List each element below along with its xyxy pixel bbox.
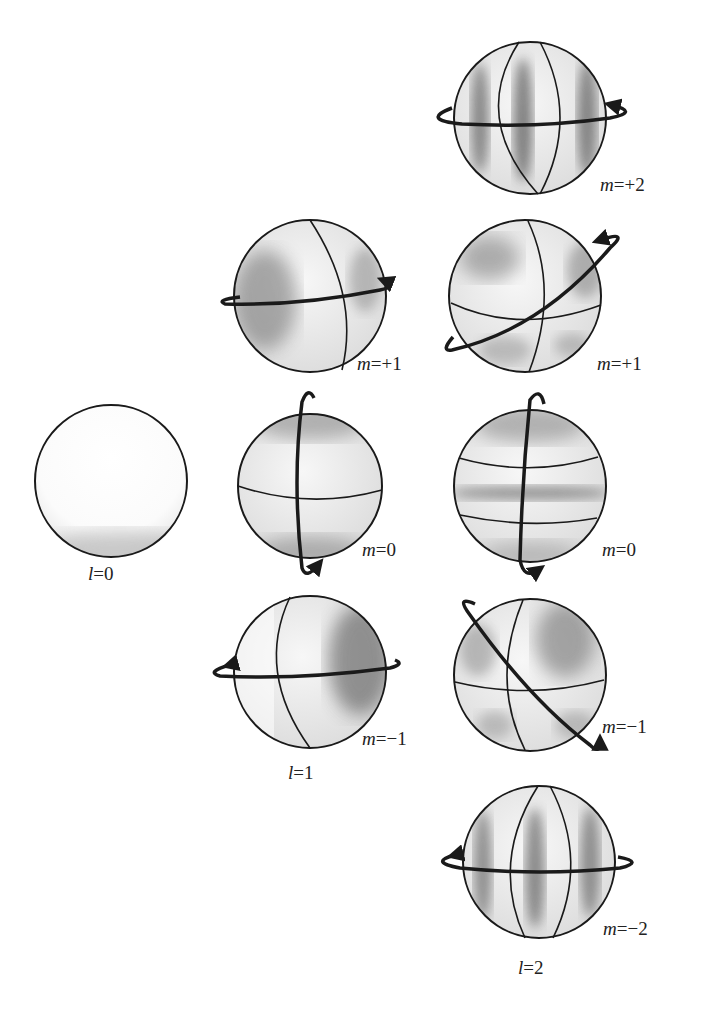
sphere-l1-mp1 bbox=[222, 220, 390, 372]
m-label-l2-mp2: m=+2 bbox=[600, 174, 645, 195]
m-label-l2-mm2: m=−2 bbox=[603, 918, 648, 939]
sphere-l2-mp1 bbox=[446, 220, 618, 372]
m-label-l2-mm1: m=−1 bbox=[602, 716, 647, 737]
column-label-l1: l=1 bbox=[288, 762, 314, 783]
spherical-harmonics-figure: l=0 m=+1 m=0 bbox=[0, 0, 704, 1009]
m-label-l1-mp1: m=+1 bbox=[357, 353, 402, 374]
column-label-l0: l=0 bbox=[88, 563, 114, 584]
sphere-l2-m0 bbox=[450, 394, 610, 573]
m-label-l1-m0: m=0 bbox=[362, 539, 396, 560]
m-label-l2-m0: m=0 bbox=[602, 539, 636, 560]
sphere-l2-mm1 bbox=[454, 599, 606, 751]
sphere-l1-m0 bbox=[238, 393, 382, 573]
sphere-l2-mp2 bbox=[438, 42, 625, 194]
m-label-l2-mp1: m=+1 bbox=[597, 353, 642, 374]
sphere-l0-m0 bbox=[35, 405, 190, 566]
sphere-l2-mm2 bbox=[443, 786, 632, 938]
column-label-l2: l=2 bbox=[518, 957, 544, 978]
m-label-l1-mm1: m=−1 bbox=[362, 728, 407, 749]
